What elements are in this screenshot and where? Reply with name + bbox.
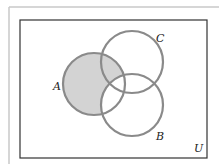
label-a: A: [52, 80, 61, 93]
label-universe: U: [194, 142, 204, 155]
label-b: B: [155, 130, 164, 143]
venn-diagram: A C B U: [0, 0, 219, 164]
label-c: C: [156, 32, 165, 45]
